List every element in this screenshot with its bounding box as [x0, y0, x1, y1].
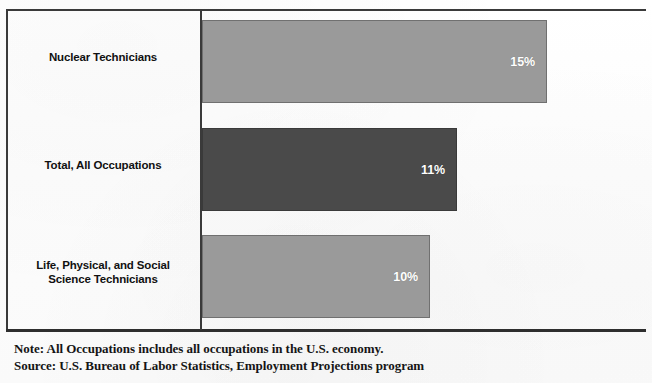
bar-category-label: Life, Physical, and Social Science Techn… — [12, 258, 194, 286]
bar-row: Total, All Occupations 11% — [8, 128, 646, 211]
bar-life-physical-social-science-technicians[interactable]: 10% — [202, 235, 430, 318]
bar-category-label-line: Nuclear Technicians — [12, 50, 194, 64]
bar-track: 10% — [202, 235, 430, 318]
bar-value-label: 11% — [421, 163, 456, 177]
bar-value-label: 15% — [510, 55, 546, 69]
bar-track: 15% — [202, 20, 547, 103]
chart-screenshot: Nuclear Technicians 15% Total, All Occup… — [0, 0, 652, 383]
footnote-source: Source: U.S. Bureau of Labor Statistics,… — [14, 357, 634, 374]
bar-category-label-line: Life, Physical, and Social — [12, 258, 194, 272]
bar-total-all-occupations[interactable]: 11% — [202, 128, 457, 211]
bar-category-label: Total, All Occupations — [12, 158, 194, 172]
bar-track: 11% — [202, 128, 457, 211]
bar-row: Nuclear Technicians 15% — [8, 20, 646, 103]
bar-category-label: Nuclear Technicians — [12, 50, 194, 64]
bar-category-label-line: Total, All Occupations — [12, 158, 194, 172]
plot-area: Nuclear Technicians 15% Total, All Occup… — [8, 11, 646, 330]
footnote: Note: All Occupations includes all occup… — [14, 340, 634, 374]
bar-nuclear-technicians[interactable]: 15% — [202, 20, 547, 103]
bar-value-label: 10% — [393, 270, 429, 284]
bar-category-label-line: Science Technicians — [12, 272, 194, 286]
footnote-note: Note: All Occupations includes all occup… — [14, 340, 634, 357]
bar-row: Life, Physical, and Social Science Techn… — [8, 235, 646, 318]
